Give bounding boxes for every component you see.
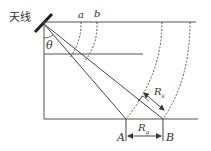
point-B-label: B [166,132,174,143]
range-arc-b [84,22,97,62]
slant-range-subscript: s [162,92,165,99]
theta-angle-arc [44,35,53,38]
ground-range-label: Rg [138,123,149,135]
point-A-label: A [117,132,125,143]
arc-b-label: b [94,9,100,19]
ground-range-subscript: g [146,128,150,135]
slant-range-symbol: R [154,86,162,97]
range-arc-right-b [163,22,190,119]
radar-geometry-diagram [0,0,211,151]
antenna-label: 天线 [9,12,31,23]
arc-a-label: a [78,10,84,20]
theta-label: θ [46,40,53,51]
slant-range-label: Rs [154,87,165,99]
ray-to-B [44,24,163,119]
ground-range-symbol: R [138,122,146,133]
ray-to-A [44,24,126,119]
